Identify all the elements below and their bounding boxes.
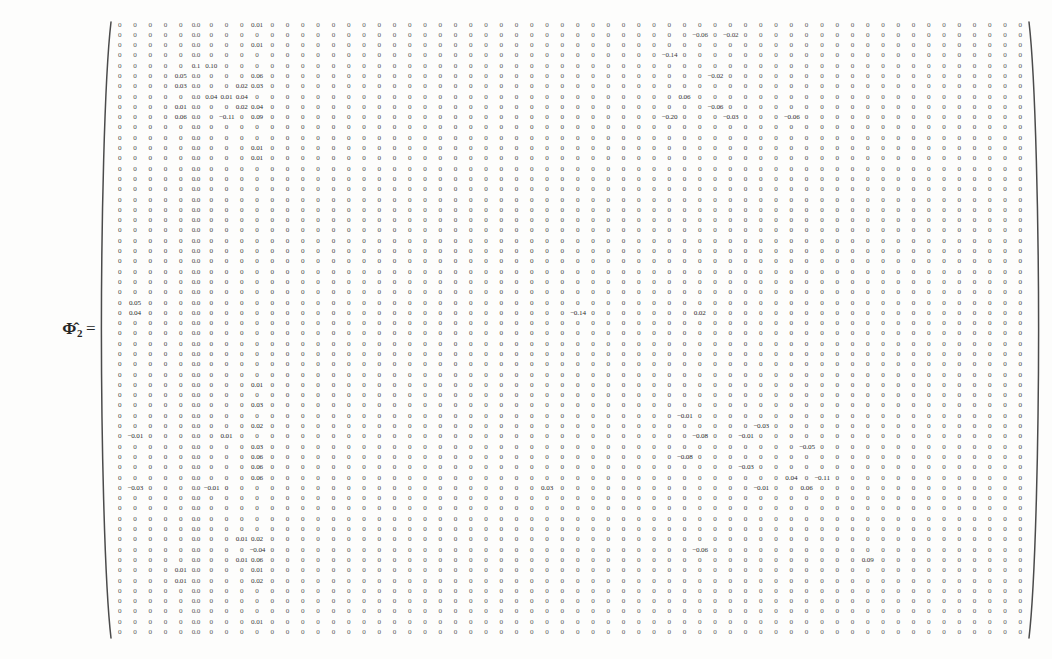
- matrix-cell: 0: [372, 122, 387, 132]
- matrix-cell: 0: [921, 359, 936, 369]
- matrix-cell: 0: [555, 184, 570, 194]
- matrix-cell: 0: [845, 112, 860, 122]
- matrix-cell: 0: [631, 493, 646, 503]
- matrix-row: 000000.000000000000000000000000000000000…: [112, 215, 1028, 225]
- matrix-cell: 0: [219, 30, 234, 40]
- matrix-cell: 0: [952, 576, 967, 586]
- matrix-cell: 0: [295, 122, 310, 132]
- matrix-cell: 0: [723, 133, 738, 143]
- matrix-cell: 0: [860, 503, 875, 513]
- matrix-cell: 0: [768, 267, 783, 277]
- matrix-cell: 0: [127, 184, 142, 194]
- matrix-cell: 0: [906, 617, 921, 627]
- matrix-cell: 0: [326, 112, 341, 122]
- matrix-cell: 0: [219, 390, 234, 400]
- matrix-cell: 0: [692, 576, 707, 586]
- matrix-cell: 0: [829, 421, 844, 431]
- matrix-cell: 0: [555, 483, 570, 493]
- matrix-cell: 0: [387, 349, 402, 359]
- matrix-cell: 0: [158, 503, 173, 513]
- matrix-cell: 0: [539, 112, 554, 122]
- matrix-cell: 0: [707, 308, 722, 318]
- matrix-cell: 0: [646, 390, 661, 400]
- matrix-cell: 0: [204, 462, 219, 472]
- matrix-cell: 0: [295, 308, 310, 318]
- matrix-cell: 0: [692, 400, 707, 410]
- matrix-cell: 0: [753, 195, 768, 205]
- matrix-cell: 0: [448, 267, 463, 277]
- matrix-cell: 0: [585, 184, 600, 194]
- matrix-cell: 0: [677, 555, 692, 565]
- matrix-cell: 0: [433, 483, 448, 493]
- matrix-cell: 0: [891, 545, 906, 555]
- matrix-cell: 0: [753, 380, 768, 390]
- matrix-cell: 0: [402, 102, 417, 112]
- matrix-cell: 0: [891, 174, 906, 184]
- matrix-cell: 0: [448, 442, 463, 452]
- matrix-cell: 0: [891, 411, 906, 421]
- matrix-cell: 0.0: [188, 617, 203, 627]
- matrix-cell: 0.0: [188, 112, 203, 122]
- matrix-cell: 0: [952, 596, 967, 606]
- matrix-cell: 0: [524, 349, 539, 359]
- matrix-cell: 0: [982, 122, 997, 132]
- matrix-cell: 0: [982, 411, 997, 421]
- matrix-cell: −0.01: [753, 483, 768, 493]
- matrix-cell: 0: [631, 586, 646, 596]
- matrix-cell: 0: [753, 534, 768, 544]
- matrix-cell: 0: [417, 164, 432, 174]
- matrix-cell: 0: [173, 555, 188, 565]
- matrix-cell: 0: [204, 287, 219, 297]
- matrix-cell: 0: [478, 359, 493, 369]
- matrix-cell: 0: [738, 225, 753, 235]
- matrix-cell: 0: [249, 215, 264, 225]
- matrix-cell: 0: [768, 153, 783, 163]
- matrix-cell: 0: [738, 205, 753, 215]
- matrix-cell: 0: [524, 112, 539, 122]
- matrix-cell: 0: [173, 174, 188, 184]
- matrix-cell: 0: [1013, 380, 1028, 390]
- matrix-cell: 0: [814, 534, 829, 544]
- matrix-cell: 0: [646, 473, 661, 483]
- matrix-cell: 0: [494, 277, 509, 287]
- matrix-cell: 0: [463, 215, 478, 225]
- matrix-cell: 0: [906, 225, 921, 235]
- matrix-cell: 0: [982, 339, 997, 349]
- matrix-cell: 0: [906, 318, 921, 328]
- matrix-cell: 0: [601, 318, 616, 328]
- matrix-cell: 0: [616, 215, 631, 225]
- matrix-cell: 0: [478, 380, 493, 390]
- matrix-cell: 0: [723, 493, 738, 503]
- matrix-cell: 0: [387, 617, 402, 627]
- matrix-cell: 0: [936, 400, 951, 410]
- matrix-cell: 0: [631, 40, 646, 50]
- matrix-cell: 0: [387, 586, 402, 596]
- matrix-cell: 0: [112, 92, 127, 102]
- matrix-cell: 0: [310, 122, 325, 132]
- matrix-cell: 0: [402, 617, 417, 627]
- matrix-cell: 0: [555, 153, 570, 163]
- matrix-cell: 0: [326, 133, 341, 143]
- matrix-cell: 0: [982, 195, 997, 205]
- matrix-cell: 0: [585, 431, 600, 441]
- matrix-cell: 0: [509, 195, 524, 205]
- matrix-cell: 0: [616, 328, 631, 338]
- matrix-cell: 0: [845, 617, 860, 627]
- matrix-cell: 0: [524, 184, 539, 194]
- matrix-row: 000000.000000000000000000000000000000000…: [112, 287, 1028, 297]
- matrix-cell: 0: [829, 380, 844, 390]
- matrix-cell: 0: [1013, 555, 1028, 565]
- matrix-cell: 0: [814, 81, 829, 91]
- matrix-cell: 0: [707, 565, 722, 575]
- matrix-cell: 0: [173, 61, 188, 71]
- matrix-cell: 0.0: [188, 164, 203, 174]
- matrix-cell: 0: [891, 534, 906, 544]
- matrix-cell: 0: [601, 30, 616, 40]
- matrix-cell: 0: [906, 246, 921, 256]
- matrix-cell: 0: [387, 40, 402, 50]
- matrix-cell: 0: [280, 442, 295, 452]
- matrix-cell: 0: [524, 514, 539, 524]
- matrix-cell: 0: [738, 534, 753, 544]
- matrix-cell: 0: [295, 606, 310, 616]
- matrix-cell: 0: [814, 565, 829, 575]
